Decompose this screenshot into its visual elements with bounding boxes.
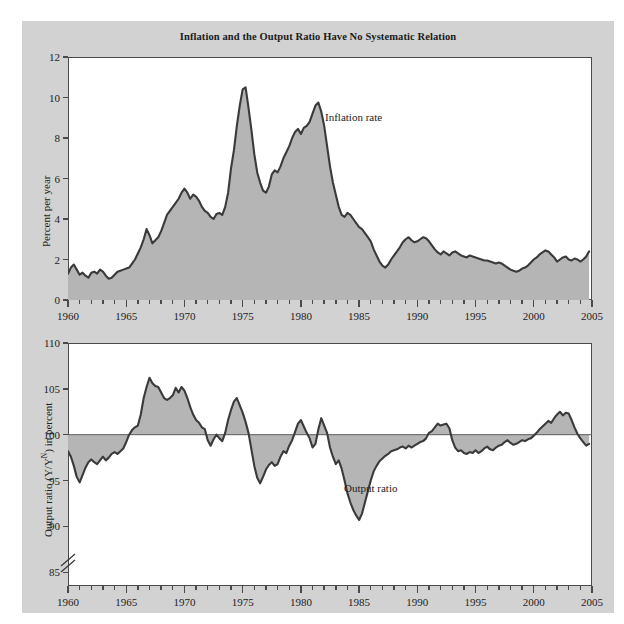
- y-tick-label: 90: [35, 520, 60, 532]
- x-tick-label: 1995: [465, 596, 487, 608]
- x-major-tick-mark: [242, 586, 243, 593]
- x-tick-label: 1990: [406, 596, 428, 608]
- x-minor-tick-mark: [137, 586, 138, 590]
- x-minor-tick-mark: [521, 586, 522, 590]
- x-minor-tick-mark: [452, 586, 453, 590]
- x-tick-label: 2005: [581, 596, 603, 608]
- y-tick-mark: [63, 388, 68, 389]
- x-minor-tick-mark: [79, 586, 80, 590]
- x-major-tick-mark: [126, 586, 127, 593]
- x-minor-tick-mark: [510, 586, 511, 590]
- x-minor-tick-mark: [556, 586, 557, 590]
- x-major-tick-mark: [184, 586, 185, 593]
- x-major-tick-mark: [67, 586, 68, 593]
- x-major-tick-mark: [417, 586, 418, 593]
- x-minor-tick-mark: [265, 586, 266, 590]
- x-major-tick-mark: [533, 586, 534, 593]
- x-minor-tick-mark: [195, 586, 196, 590]
- y-tick-mark: [63, 434, 68, 435]
- x-major-tick-mark: [591, 586, 592, 593]
- figure-page: Inflation and the Output Ratio Have No S…: [0, 0, 624, 624]
- x-major-tick-mark: [475, 586, 476, 593]
- y-axis-title-superscript: N: [40, 453, 49, 458]
- x-minor-tick-mark: [289, 586, 290, 590]
- x-minor-tick-mark: [114, 586, 115, 590]
- y-tick-mark: [63, 480, 68, 481]
- x-minor-tick-mark: [335, 586, 336, 590]
- x-minor-tick-mark: [463, 586, 464, 590]
- y-tick-mark: [63, 572, 68, 573]
- y-tick-mark: [63, 526, 68, 527]
- x-minor-tick-mark: [323, 586, 324, 590]
- x-tick-label: 1985: [348, 596, 370, 608]
- x-minor-tick-mark: [347, 586, 348, 590]
- x-minor-tick-mark: [219, 586, 220, 590]
- x-minor-tick-mark: [428, 586, 429, 590]
- y-tick-label: 100: [35, 429, 60, 441]
- x-minor-tick-mark: [370, 586, 371, 590]
- x-minor-tick-mark: [230, 586, 231, 590]
- x-minor-tick-mark: [91, 586, 92, 590]
- x-minor-tick-mark: [393, 586, 394, 590]
- output-ratio-panel: Output ratio (Y/YN) in percent 859095100…: [0, 0, 624, 624]
- x-minor-tick-mark: [277, 586, 278, 590]
- x-minor-tick-mark: [160, 586, 161, 590]
- x-minor-tick-mark: [487, 586, 488, 590]
- x-major-tick-mark: [300, 586, 301, 593]
- x-minor-tick-mark: [207, 586, 208, 590]
- y-tick-label: 85: [35, 566, 60, 578]
- y-tick-label: 95: [35, 475, 60, 487]
- x-tick-label: 1970: [173, 596, 195, 608]
- output-ratio-series-label: Output ratio: [344, 482, 397, 494]
- x-minor-tick-mark: [580, 586, 581, 590]
- x-minor-tick-mark: [405, 586, 406, 590]
- x-tick-label: 1975: [232, 596, 254, 608]
- x-minor-tick-mark: [568, 586, 569, 590]
- x-tick-label: 1980: [290, 596, 312, 608]
- x-tick-label: 2000: [523, 596, 545, 608]
- x-major-tick-mark: [358, 586, 359, 593]
- output-ratio-chart-svg: [68, 343, 592, 586]
- y-tick-label: 105: [35, 383, 60, 395]
- x-minor-tick-mark: [382, 586, 383, 590]
- output-ratio-y-axis-title: Output ratio (Y/YN) in percent: [40, 403, 54, 537]
- y-tick-label: 110: [35, 337, 60, 349]
- x-minor-tick-mark: [254, 586, 255, 590]
- y-axis-break-icon: [58, 550, 80, 576]
- x-minor-tick-mark: [149, 586, 150, 590]
- x-minor-tick-mark: [172, 586, 173, 590]
- x-minor-tick-mark: [312, 586, 313, 590]
- x-minor-tick-mark: [498, 586, 499, 590]
- x-minor-tick-mark: [102, 586, 103, 590]
- x-tick-label: 1965: [115, 596, 137, 608]
- x-tick-label: 1960: [57, 596, 79, 608]
- x-minor-tick-mark: [545, 586, 546, 590]
- x-minor-tick-mark: [440, 586, 441, 590]
- y-tick-mark: [63, 342, 68, 343]
